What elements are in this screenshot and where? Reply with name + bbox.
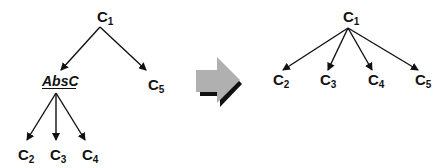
left-tree: C1 AbsC C5 C2 C3 C4 <box>18 8 165 165</box>
edge-root-to-c4 <box>348 28 372 70</box>
block-right-arrow-icon <box>196 57 242 107</box>
left-c2-node: C2 <box>18 146 35 165</box>
abstract-node-absc: AbsC <box>41 73 79 89</box>
edge-root-to-c5 <box>100 27 146 70</box>
edge-root-to-c5 <box>348 28 418 70</box>
left-root-node: C1 <box>97 8 114 27</box>
left-c5-node: C5 <box>148 76 165 95</box>
right-c3-node: C3 <box>320 71 337 90</box>
edge-absc-to-c4 <box>56 93 85 140</box>
left-c4-node: C4 <box>82 146 99 165</box>
right-c5-node: C5 <box>415 71 432 90</box>
left-c3-node: C3 <box>50 146 67 165</box>
class-hierarchy-diagram: C1 AbsC C5 C2 C3 C4 C1 C2 C3 C4 C5 <box>0 0 448 168</box>
right-c4-node: C4 <box>368 71 385 90</box>
right-root-node: C1 <box>343 8 360 27</box>
right-tree: C1 C2 C3 C4 C5 <box>273 8 432 90</box>
edge-absc-to-c2 <box>27 93 56 140</box>
edge-root-to-absc <box>61 27 100 70</box>
right-c2-node: C2 <box>273 71 290 90</box>
